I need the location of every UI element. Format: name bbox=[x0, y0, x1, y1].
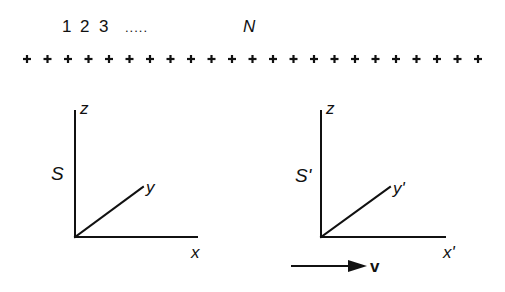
particle-labels: 1 2 3 ..... N bbox=[62, 17, 256, 36]
particle-plus-marker bbox=[44, 55, 52, 63]
particle-plus-marker bbox=[392, 55, 400, 63]
particle-plus-marker bbox=[249, 55, 257, 63]
particle-label-n: N bbox=[243, 17, 256, 36]
particle-plus-marker bbox=[64, 55, 72, 63]
particle-plus-marker bbox=[167, 55, 175, 63]
frame-s-prime-z-label: z bbox=[325, 99, 335, 118]
velocity-arrow-head-icon bbox=[348, 260, 367, 272]
particle-plus-marker bbox=[454, 55, 462, 63]
frame-s-y-axis bbox=[75, 187, 143, 237]
particle-label-2: 2 bbox=[80, 17, 89, 36]
frame-s-y-label: y bbox=[145, 178, 156, 197]
particle-row bbox=[23, 55, 482, 63]
frame-s-name-label: S bbox=[51, 163, 64, 184]
reference-frames-diagram: 1 2 3 ..... N z x y S z x' y' S' v bbox=[0, 0, 505, 292]
frame-s-prime-y-axis bbox=[321, 187, 390, 237]
frame-s-prime-x-label: x' bbox=[442, 243, 456, 262]
frame-s-prime-y-label: y' bbox=[392, 179, 406, 198]
particle-plus-marker bbox=[85, 55, 93, 63]
particle-label-1: 1 bbox=[62, 17, 71, 36]
particle-plus-marker bbox=[208, 55, 216, 63]
velocity-label: v bbox=[370, 257, 380, 276]
particle-ellipsis: ..... bbox=[125, 20, 148, 35]
frame-s-prime-name-label: S' bbox=[295, 165, 313, 186]
particle-plus-marker bbox=[372, 55, 380, 63]
particle-plus-marker bbox=[310, 55, 318, 63]
frame-s: z x y S bbox=[51, 99, 200, 262]
particle-plus-marker bbox=[290, 55, 298, 63]
frame-s-z-label: z bbox=[79, 99, 89, 118]
particle-plus-marker bbox=[228, 55, 236, 63]
velocity-indicator: v bbox=[291, 257, 380, 276]
particle-plus-marker bbox=[187, 55, 195, 63]
particle-plus-marker bbox=[146, 55, 154, 63]
frame-s-x-label: x bbox=[190, 243, 200, 262]
particle-plus-marker bbox=[126, 55, 134, 63]
particle-plus-marker bbox=[474, 55, 482, 63]
particle-plus-marker bbox=[23, 55, 31, 63]
particle-plus-marker bbox=[269, 55, 277, 63]
particle-plus-marker bbox=[413, 55, 421, 63]
frame-s-prime: z x' y' S' bbox=[295, 99, 456, 262]
particle-plus-marker bbox=[331, 55, 339, 63]
particle-plus-marker bbox=[433, 55, 441, 63]
particle-plus-marker bbox=[105, 55, 113, 63]
particle-label-3: 3 bbox=[99, 17, 108, 36]
particle-plus-marker bbox=[351, 55, 359, 63]
